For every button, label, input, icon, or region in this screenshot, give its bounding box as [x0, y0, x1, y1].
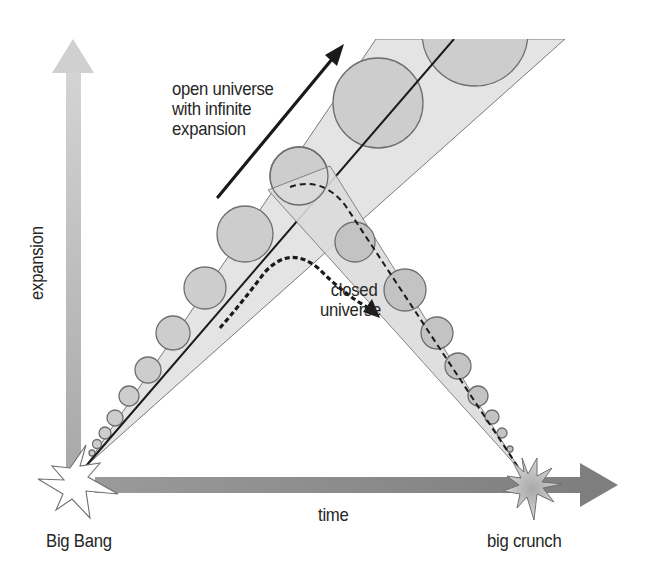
expansion-axis-arrow [52, 39, 94, 470]
closed-universe-label-line-2: universe [320, 300, 381, 320]
closed-universe-label: closed universe [320, 280, 381, 320]
open-universe-label: open universe with infinite expansion [172, 79, 274, 139]
open-universe-label-line-3: expansion [172, 119, 274, 139]
closed-universe-cone [268, 147, 520, 470]
big-bang-label: Big Bang [46, 531, 112, 551]
closed-universe-circles [335, 222, 513, 452]
open-universe-label-line-2: with infinite [172, 99, 274, 119]
time-axis-label: time [318, 505, 349, 525]
expansion-axis-label: expansion [27, 226, 47, 300]
closed-universe-label-line-1: closed [320, 280, 381, 300]
big-crunch-label: big crunch [487, 531, 562, 551]
open-universe-label-line-1: open universe [172, 79, 274, 99]
